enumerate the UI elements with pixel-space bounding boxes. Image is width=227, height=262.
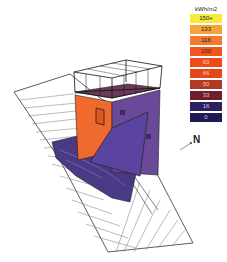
legend-item: 133 xyxy=(190,25,222,34)
legend-item: 50 xyxy=(190,80,222,89)
legend-item: 66 xyxy=(190,69,222,78)
legend-item: 150+ xyxy=(190,14,222,23)
legend-item: 33 xyxy=(190,91,222,100)
legend-unit: kWh/m2 xyxy=(190,4,222,14)
north-label: N xyxy=(193,134,200,145)
legend-item: 83 xyxy=(190,58,222,67)
legend-item: 100 xyxy=(190,47,222,56)
legend: kWh/m2 150+ 133 116 100 83 66 50 33 16 0 xyxy=(190,4,222,124)
legend-item: 0 xyxy=(190,113,222,122)
north-arrow-icon xyxy=(180,143,191,150)
legend-item: 116 xyxy=(190,36,222,45)
legend-item: 16 xyxy=(190,102,222,111)
